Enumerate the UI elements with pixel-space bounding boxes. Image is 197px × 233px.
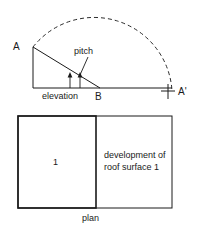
diagram-canvas: A B pitch elevation A' 1 development of … (0, 0, 197, 233)
label-vertex-b: B (95, 91, 102, 102)
roof-pitch-diagram: A B pitch elevation A' 1 development of … (0, 0, 197, 233)
pitch-arrow-left-head (68, 72, 73, 77)
label-development-line1: development of (104, 150, 166, 160)
pitch-leader-line (80, 57, 88, 75)
label-vertex-a: A (13, 41, 20, 52)
label-roof-surface-number: 1 (53, 157, 58, 167)
label-elevation-caption: elevation (42, 91, 78, 101)
label-plan-caption: plan (82, 213, 99, 223)
label-a-prime: A' (178, 86, 187, 97)
label-development-line2: roof surface 1 (104, 162, 159, 172)
swing-arc-dashed (33, 17, 172, 91)
label-pitch: pitch (74, 46, 93, 56)
